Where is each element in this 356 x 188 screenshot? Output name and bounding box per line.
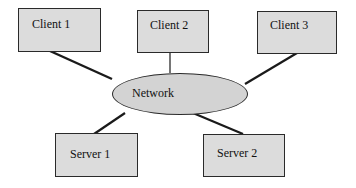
link-client3-network xyxy=(245,53,297,84)
client-2-node: Client 2 xyxy=(137,10,209,53)
link-network-server2 xyxy=(193,113,243,134)
server-2-label: Server 2 xyxy=(217,146,257,161)
client-2-label: Client 2 xyxy=(150,18,188,33)
server-2-node: Server 2 xyxy=(203,134,285,177)
link-network-server1 xyxy=(94,113,125,134)
link-client1-network xyxy=(50,51,112,79)
server-1-node: Server 1 xyxy=(55,133,138,177)
client-1-node: Client 1 xyxy=(18,8,101,52)
client-1-label: Client 1 xyxy=(32,17,70,32)
network-ellipse: Network xyxy=(112,73,248,115)
server-1-label: Server 1 xyxy=(70,147,110,162)
network-label: Network xyxy=(132,86,174,101)
client-3-label: Client 3 xyxy=(270,18,308,33)
client-3-node: Client 3 xyxy=(257,11,337,54)
